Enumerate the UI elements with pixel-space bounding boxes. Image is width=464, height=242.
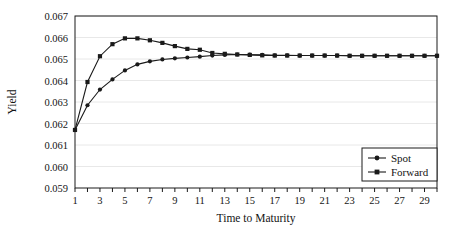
data-point-marker (248, 53, 252, 57)
legend-marker-spot (375, 156, 380, 161)
x-axis-tick-label: 1 (72, 195, 77, 206)
x-axis-tick-label: 25 (369, 195, 380, 206)
chart-legend: SpotForward (362, 148, 437, 181)
y-axis-tick-label: 0.064 (44, 76, 68, 87)
data-point-marker (422, 54, 426, 58)
data-point-marker (285, 53, 289, 57)
x-axis-tick-label: 29 (419, 195, 430, 206)
y-axis-tick-label: 0.061 (44, 140, 68, 151)
data-point-marker (160, 57, 164, 61)
legend-label-spot: Spot (391, 152, 411, 164)
data-point-marker (410, 54, 414, 58)
data-point-marker (148, 38, 152, 42)
data-point-marker (98, 87, 102, 91)
data-point-marker (123, 36, 127, 40)
data-point-marker (135, 62, 139, 66)
x-axis-tick-label: 27 (394, 195, 405, 206)
data-point-marker (298, 53, 302, 57)
data-point-marker (185, 55, 189, 59)
data-point-marker (173, 56, 177, 60)
data-point-marker (210, 51, 214, 55)
data-point-marker (397, 54, 401, 58)
data-point-marker (110, 42, 114, 46)
data-point-marker (148, 59, 152, 63)
data-point-marker (98, 54, 102, 58)
data-point-marker (435, 54, 439, 58)
x-axis-tick-label: 17 (269, 195, 280, 206)
data-point-marker (160, 41, 164, 45)
x-axis-tick-label: 3 (97, 195, 102, 206)
x-axis-tick-label: 5 (122, 195, 127, 206)
data-point-marker (85, 80, 89, 84)
x-axis-tick-labels: 1357911131517192123252729 (72, 195, 429, 206)
data-point-marker (223, 52, 227, 56)
data-point-marker (235, 52, 239, 56)
x-axis-title: Time to Maturity (217, 212, 296, 225)
x-axis-tick-label: 7 (147, 195, 152, 206)
data-point-marker (173, 44, 177, 48)
data-point-marker (360, 54, 364, 58)
data-point-marker (372, 54, 376, 58)
y-axis-tick-labels: 0.0590.0600.0610.0620.0630.0640.0650.066… (44, 11, 68, 194)
x-axis-tick-label: 19 (294, 195, 305, 206)
data-point-marker (85, 103, 89, 107)
data-point-marker (185, 47, 189, 51)
data-point-marker (198, 55, 202, 59)
x-axis-tick-label: 9 (172, 195, 177, 206)
data-point-marker (385, 54, 389, 58)
y-axis-tick-label: 0.067 (44, 11, 68, 22)
y-axis-tick-label: 0.063 (44, 97, 68, 108)
legend-marker-forward (375, 170, 380, 175)
data-point-marker (123, 68, 127, 72)
data-point-marker (110, 77, 114, 81)
x-axis-tick-label: 23 (344, 195, 355, 206)
chart-canvas: 0.0590.0600.0610.0620.0630.0640.0650.066… (0, 0, 464, 242)
data-point-marker (348, 54, 352, 58)
x-axis-tick-label: 13 (220, 195, 231, 206)
y-axis-tick-label: 0.066 (44, 33, 68, 44)
yield-curve-chart: 0.0590.0600.0610.0620.0630.0640.0650.066… (0, 0, 464, 242)
data-point-marker (73, 128, 77, 132)
y-axis-tick-label: 0.065 (44, 54, 68, 65)
x-axis-tick-label: 15 (245, 195, 256, 206)
data-point-marker (335, 53, 339, 57)
data-point-marker (310, 53, 314, 57)
y-axis-tick-label: 0.062 (44, 119, 68, 130)
data-point-marker (198, 48, 202, 52)
x-axis-tick-label: 11 (195, 195, 205, 206)
y-axis-tick-label: 0.059 (44, 183, 68, 194)
y-axis-tick-label: 0.060 (44, 162, 68, 173)
data-point-marker (135, 36, 139, 40)
y-axis-title: Yield (6, 89, 18, 114)
data-point-marker (323, 53, 327, 57)
legend-label-forward: Forward (391, 166, 429, 178)
data-point-marker (273, 53, 277, 57)
x-axis-tick-label: 21 (319, 195, 330, 206)
data-point-marker (260, 53, 264, 57)
